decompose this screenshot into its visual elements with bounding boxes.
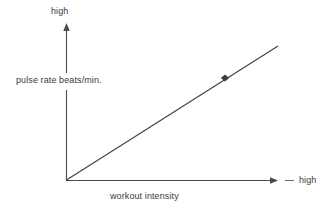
x-axis-title: workout intensity [110,191,179,202]
arrow-up-icon [63,23,69,31]
x-axis-high-label: high [299,175,316,186]
chart-figure: high high pulse rate beats/min. workout … [0,0,335,212]
plot-canvas [0,0,335,212]
diamond-marker-icon [221,75,229,82]
y-axis-high-label: high [51,6,68,17]
data-line-pulse-rate [67,46,279,180]
arrow-right-icon [270,177,278,183]
y-axis-title: pulse rate beats/min. [16,75,102,86]
